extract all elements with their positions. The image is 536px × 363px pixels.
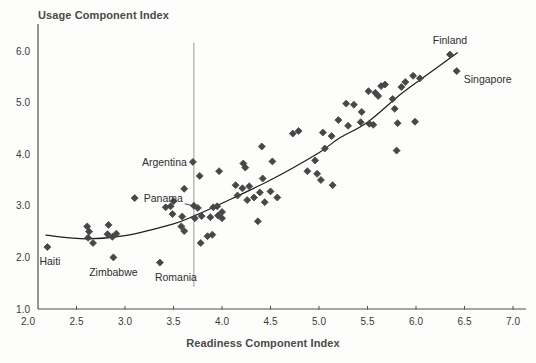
data-point — [267, 188, 274, 195]
data-point — [398, 84, 405, 91]
data-point — [179, 213, 186, 220]
data-point — [358, 108, 365, 115]
data-point — [258, 143, 265, 150]
data-point — [191, 215, 198, 222]
data-point — [329, 182, 336, 189]
data-point — [251, 194, 258, 201]
x-tick-label: 6.0 — [409, 316, 423, 327]
x-tick-label: 3.5 — [167, 316, 181, 327]
x-tick-label: 4.5 — [264, 316, 278, 327]
data-point-singapore — [453, 68, 460, 75]
data-point-haiti — [44, 244, 51, 251]
x-tick-label: 6.5 — [458, 316, 472, 327]
data-point — [197, 240, 204, 247]
trend-curve — [46, 53, 458, 239]
x-tick-label: 3.0 — [118, 316, 132, 327]
y-tick-label: 2.0 — [16, 252, 30, 263]
data-point-argentina — [189, 158, 196, 165]
data-point — [259, 175, 266, 182]
y-tick-label: 4.0 — [16, 149, 30, 160]
x-axis-title: Readiness Component Index — [186, 337, 339, 349]
data-point-romania — [156, 259, 163, 266]
country-label-zimbabwe: Zimbabwe — [89, 266, 138, 278]
data-point — [216, 168, 223, 175]
data-point — [343, 100, 350, 107]
data-point — [394, 120, 401, 127]
x-tick-label: 2.5 — [70, 316, 84, 327]
data-point — [244, 197, 251, 204]
data-point — [85, 234, 92, 241]
x-tick-label: 4.0 — [215, 316, 229, 327]
data-point — [274, 194, 281, 201]
y-tick-label: 1.0 — [16, 304, 30, 315]
data-point — [256, 189, 263, 196]
x-tick-label: 5.0 — [312, 316, 326, 327]
country-label-argentina: Argentina — [142, 156, 187, 168]
country-label-haiti: Haiti — [39, 255, 60, 267]
data-point — [365, 88, 372, 95]
data-point — [169, 211, 176, 218]
x-tick-label: 7.0 — [506, 316, 520, 327]
data-point — [328, 133, 335, 140]
data-point — [389, 96, 396, 103]
data-point — [261, 199, 268, 206]
country-label-panama: Panama — [144, 192, 183, 204]
data-point — [393, 147, 400, 154]
data-point — [196, 172, 203, 179]
country-label-romania: Romania — [155, 271, 197, 283]
data-point — [304, 168, 311, 175]
y-tick-label: 5.0 — [16, 97, 30, 108]
data-point — [131, 195, 138, 202]
data-point — [232, 182, 239, 189]
x-tick-label: 2.0 — [21, 316, 35, 327]
scatter-chart-figure: 2.02.53.03.54.04.55.05.56.06.57.01.02.03… — [0, 0, 536, 363]
data-point — [410, 72, 417, 79]
y-axis-title: Usage Component Index — [38, 9, 169, 21]
data-point — [317, 177, 324, 184]
data-point — [391, 105, 398, 112]
data-point — [207, 214, 214, 221]
data-point — [416, 75, 423, 82]
data-point — [402, 79, 409, 86]
x-tick-label: 5.5 — [361, 316, 375, 327]
data-point — [269, 158, 276, 165]
data-point — [314, 170, 321, 177]
country-label-singapore: Singapore — [464, 73, 512, 85]
data-point — [90, 240, 97, 247]
scatter-plot: 2.02.53.03.54.04.55.05.56.06.57.01.02.03… — [0, 0, 536, 363]
data-point — [319, 129, 326, 136]
panama-connector-line — [185, 204, 192, 206]
y-tick-label: 3.0 — [16, 200, 30, 211]
data-point — [239, 185, 246, 192]
data-point — [345, 122, 352, 129]
data-point — [254, 218, 261, 225]
data-point — [335, 117, 342, 124]
data-point — [312, 157, 319, 164]
country-label-finland: Finland — [433, 34, 468, 46]
data-point — [350, 101, 357, 108]
data-point — [105, 221, 112, 228]
y-tick-label: 6.0 — [16, 46, 30, 57]
data-point — [412, 118, 419, 125]
data-point-zimbabwe — [110, 254, 117, 261]
data-point — [234, 192, 241, 199]
